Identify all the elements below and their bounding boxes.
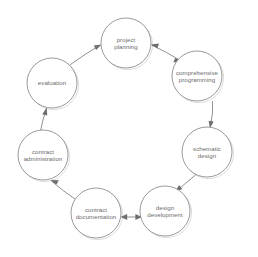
node-circle-project-planning[interactable] (101, 18, 151, 68)
arrow-contract-administration-to-evaluation (41, 108, 48, 132)
arrow-head-project-planning (94, 45, 102, 50)
node-circle-group (18, 18, 232, 238)
node-circle-comprehensive-programming[interactable] (172, 51, 222, 101)
arrow-head-evaluation (42, 108, 47, 116)
node-circle-contract-documentation[interactable] (71, 188, 121, 238)
cycle-diagram-canvas (0, 0, 258, 257)
arrow-project-planning-to-comprehensive-programming (151, 44, 183, 63)
node-circle-schematic-design[interactable] (182, 127, 232, 177)
node-circle-contract-administration[interactable] (18, 130, 68, 180)
node-circle-design-development[interactable] (140, 186, 190, 236)
node-circle-evaluation[interactable] (27, 58, 77, 108)
cycle-diagram: project planning comprehensive programmi… (0, 0, 258, 257)
arrow-evaluation-to-project-planning (71, 45, 102, 65)
arrow-comprehensive-programming-to-schematic-design (209, 102, 214, 129)
arrow-design-development-to-contract-documentation (121, 214, 143, 220)
arrow-head-contract-documentation (121, 214, 128, 220)
arrow-contract-documentation-to-contract-administration (50, 180, 75, 199)
